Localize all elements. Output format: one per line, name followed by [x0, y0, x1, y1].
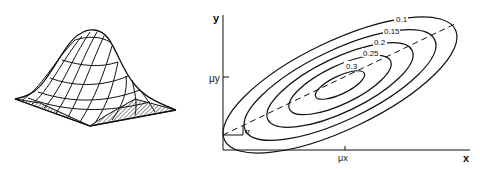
contour-label-0.25: 0.25	[363, 49, 379, 58]
surface-plot	[15, 30, 176, 126]
contour-label-0.1: 0.1	[396, 15, 408, 24]
contour-0.3	[312, 65, 368, 105]
contour-label-0.3: 0.3	[346, 62, 358, 71]
contour-label-0.15: 0.15	[384, 27, 400, 36]
figure: y x μy μx σ 0.1 0.15 0.2 0.	[0, 0, 480, 169]
mu-y-label: μy	[209, 73, 220, 84]
contour-0.15	[230, 8, 450, 162]
contour-0.2	[256, 26, 424, 144]
x-axis-label: x	[463, 152, 470, 164]
principal-axis-dashed	[223, 23, 457, 135]
contour-label-0.2: 0.2	[374, 38, 386, 47]
mu-x-label: μx	[338, 153, 348, 163]
y-axis-label: y	[213, 12, 220, 24]
contour-0.1	[206, 0, 475, 169]
contour-plot: y x μy μx σ 0.1 0.15 0.2 0.	[206, 0, 475, 169]
contour-ellipses	[206, 0, 475, 169]
